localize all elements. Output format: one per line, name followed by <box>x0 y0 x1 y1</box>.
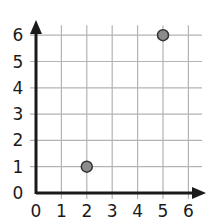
axes <box>30 20 206 199</box>
y-tick-label: 0 <box>13 183 24 203</box>
data-point <box>158 30 169 41</box>
x-tick-labels: 0123456 <box>31 201 194 221</box>
x-tick-label: 4 <box>132 201 143 221</box>
y-tick-label: 6 <box>13 25 24 45</box>
x-tick-label: 6 <box>183 201 194 221</box>
data-point <box>81 161 92 172</box>
y-tick-label: 4 <box>13 78 24 98</box>
y-tick-labels: 0123456 <box>13 25 24 203</box>
x-axis-arrow-icon <box>192 187 206 199</box>
grid-lines <box>30 25 202 199</box>
y-tick-label: 1 <box>13 157 24 177</box>
y-tick-label: 5 <box>13 52 24 72</box>
coordinate-grid-chart: 0123456 0123456 <box>0 0 212 224</box>
x-tick-label: 1 <box>56 201 67 221</box>
x-tick-label: 2 <box>81 201 92 221</box>
data-points <box>81 30 168 173</box>
y-tick-label: 3 <box>13 104 24 124</box>
x-tick-label: 3 <box>107 201 118 221</box>
x-tick-label: 0 <box>31 201 42 221</box>
y-axis-arrow-icon <box>30 20 42 34</box>
y-tick-label: 2 <box>13 130 24 150</box>
x-tick-label: 5 <box>158 201 169 221</box>
